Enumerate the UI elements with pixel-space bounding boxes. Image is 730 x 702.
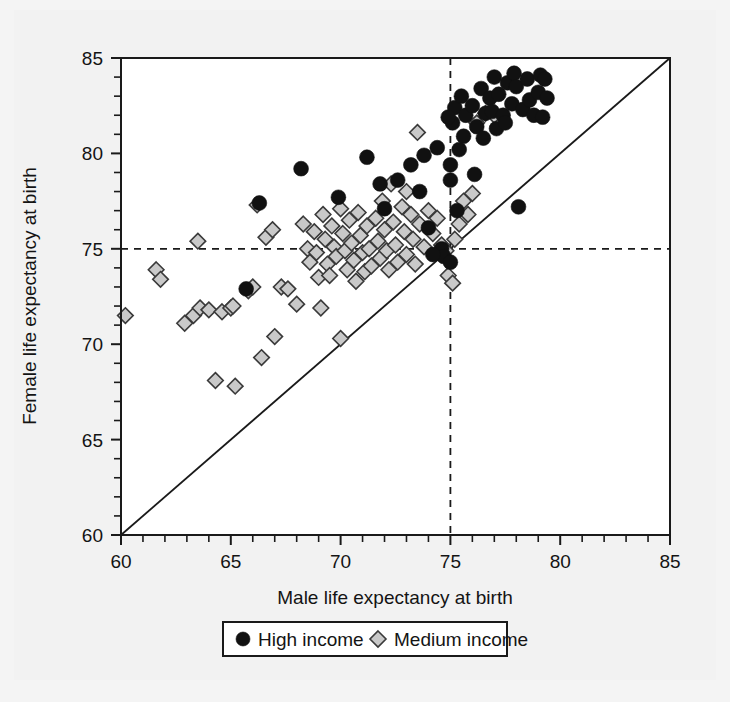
data-point-high-income (360, 150, 375, 165)
data-point-high-income (454, 89, 469, 104)
data-point-high-income (412, 184, 427, 199)
x-tick-label-70: 70 (330, 551, 351, 572)
y-tick-label-80: 80 (82, 143, 103, 164)
data-point-high-income (443, 255, 458, 270)
x-axis-title: Male life expectancy at birth (277, 587, 513, 608)
y-tick-label-85: 85 (82, 48, 103, 69)
data-point-high-income (331, 190, 346, 205)
data-point-high-income (537, 72, 552, 87)
data-point-high-income (487, 70, 502, 85)
y-tick-label-70: 70 (82, 334, 103, 355)
data-point-high-income (443, 157, 458, 172)
data-point-high-income (520, 72, 535, 87)
data-point-high-income (476, 131, 491, 146)
x-tick-label-60: 60 (110, 551, 131, 572)
data-point-high-income (441, 110, 456, 125)
data-point-high-income (252, 196, 267, 211)
data-point-high-income (540, 91, 555, 106)
legend: High income Medium income (223, 622, 528, 656)
data-point-high-income (425, 247, 440, 262)
data-point-high-income (417, 148, 432, 163)
x-tick-label-65: 65 (220, 551, 241, 572)
data-point-high-income (373, 177, 388, 192)
y-tick-label-65: 65 (82, 430, 103, 451)
data-point-high-income (377, 201, 392, 216)
data-point-high-income (498, 115, 513, 130)
x-tick-label-80: 80 (550, 551, 571, 572)
x-tick-label-75: 75 (440, 551, 461, 572)
data-point-high-income (535, 110, 550, 125)
data-point-high-income (452, 142, 467, 157)
y-tick-label-75: 75 (82, 239, 103, 260)
y-tick-label-60: 60 (82, 525, 103, 546)
figure-container: 606570758085606570758085 Male life expec… (0, 0, 730, 702)
data-point-high-income (450, 203, 465, 218)
y-axis-title: Female life expectancy at birth (19, 167, 40, 425)
data-point-high-income (507, 66, 522, 81)
legend-circle-icon (236, 632, 250, 646)
data-point-high-income (511, 199, 526, 214)
data-point-high-income (239, 281, 254, 296)
data-point-high-income (294, 161, 309, 176)
data-point-high-income (456, 129, 471, 144)
chart-svg: 606570758085606570758085 Male life expec… (0, 0, 730, 702)
x-tick-label-85: 85 (659, 551, 680, 572)
legend-label-medium-income: Medium income (394, 629, 528, 650)
scatter-plot: 606570758085606570758085 Male life expec… (0, 0, 730, 702)
legend-label-high-income: High income (258, 629, 364, 650)
data-point-high-income (430, 140, 445, 155)
data-point-high-income (443, 173, 458, 188)
data-point-high-income (403, 157, 418, 172)
data-point-high-income (421, 220, 436, 235)
data-point-high-income (390, 173, 405, 188)
data-point-high-income (467, 167, 482, 182)
